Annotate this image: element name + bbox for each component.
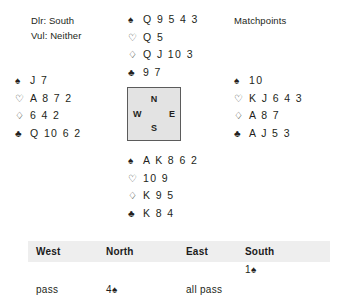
- hand-west-clubs: Q 10 6 2: [30, 125, 81, 143]
- diamond-icon: ♢: [128, 187, 143, 205]
- heart-icon: ♡: [15, 90, 30, 108]
- club-icon: ♣: [128, 205, 143, 223]
- hand-south-hearts: 10 9: [143, 170, 169, 188]
- hand-east-diamonds: A 8 7: [249, 107, 280, 125]
- hand-west-diamonds-row: ♢ 6 4 2: [15, 107, 81, 125]
- compass-east-label: E: [169, 110, 175, 119]
- spade-icon: ♠: [251, 264, 257, 275]
- hand-east-clubs: A J 5 3: [249, 125, 291, 143]
- hand-east-spades-row: ♠ 10: [234, 72, 303, 90]
- hand-east-spades: 10: [249, 72, 263, 90]
- spade-icon: ♠: [112, 284, 118, 295]
- hand-north-diamonds-row: ♢ Q J 10 3: [128, 46, 199, 64]
- scoring-label: Matchpoints: [234, 14, 286, 29]
- hand-east-diamonds-row: ♢ A 8 7: [234, 107, 303, 125]
- compass-box: N E S W: [127, 87, 181, 141]
- hand-west-hearts-row: ♡ A 8 7 2: [15, 90, 81, 108]
- dealer-label: Dlr: South: [31, 14, 81, 29]
- auction-header-north: North: [106, 241, 134, 262]
- hand-west-spades: J 7: [30, 72, 48, 90]
- hand-west-hearts: A 8 7 2: [30, 90, 73, 108]
- hand-north-spades: Q 9 5 4 3: [143, 11, 199, 29]
- auction-header-row: West North East South: [28, 241, 330, 262]
- auction-bid-south-1: 1♠: [245, 263, 257, 277]
- diamond-icon: ♢: [234, 107, 249, 125]
- hand-west-clubs-row: ♣ Q 10 6 2: [15, 125, 81, 143]
- hand-east-hearts: K J 6 4 3: [249, 90, 303, 108]
- hand-east-hearts-row: ♡ K J 6 4 3: [234, 90, 303, 108]
- spade-icon: ♠: [128, 11, 143, 29]
- hand-south-diamonds: K 9 5: [143, 187, 175, 205]
- diamond-icon: ♢: [15, 107, 30, 125]
- hand-north-hearts: Q 5: [143, 29, 164, 47]
- heart-icon: ♡: [128, 29, 143, 47]
- auction-bid-west-2: pass: [36, 283, 58, 297]
- scoring-block: Matchpoints: [234, 14, 286, 29]
- hand-north-spades-row: ♠ Q 9 5 4 3: [128, 11, 199, 29]
- deal-info-block: Dlr: South Vul: Neither: [31, 14, 81, 43]
- club-icon: ♣: [15, 125, 30, 143]
- spade-icon: ♠: [15, 72, 30, 90]
- hand-south-spades-row: ♠ A K 8 6 2: [128, 152, 198, 170]
- hand-south-diamonds-row: ♢ K 9 5: [128, 187, 198, 205]
- auction-header-east: East: [186, 241, 208, 262]
- hand-south: ♠ A K 8 6 2 ♡ 10 9 ♢ K 9 5 ♣ K 8 4: [128, 152, 198, 222]
- compass-west-label: W: [133, 110, 142, 119]
- auction-header-south: South: [245, 241, 274, 262]
- heart-icon: ♡: [234, 90, 249, 108]
- auction-table: West North East South 1♠ pass 4♠ all pas…: [28, 241, 330, 302]
- hand-east-clubs-row: ♣ A J 5 3: [234, 125, 303, 143]
- hand-east: ♠ 10 ♡ K J 6 4 3 ♢ A 8 7 ♣ A J 5 3: [234, 72, 303, 142]
- hand-west: ♠ J 7 ♡ A 8 7 2 ♢ 6 4 2 ♣ Q 10 6 2: [15, 72, 81, 142]
- hand-west-diamonds: 6 4 2: [30, 107, 60, 125]
- hand-south-spades: A K 8 6 2: [143, 152, 198, 170]
- vulnerability-label: Vul: Neither: [31, 29, 81, 44]
- club-icon: ♣: [234, 125, 249, 143]
- hand-north-hearts-row: ♡ Q 5: [128, 29, 199, 47]
- auction-bids: 1♠ pass 4♠ all pass: [28, 262, 330, 302]
- club-icon: ♣: [128, 64, 143, 82]
- spade-icon: ♠: [234, 72, 249, 90]
- hand-north-clubs-row: ♣ 9 7: [128, 64, 199, 82]
- compass-north-label: N: [151, 95, 158, 104]
- hand-south-hearts-row: ♡ 10 9: [128, 170, 198, 188]
- hand-south-clubs: K 8 4: [143, 205, 175, 223]
- auction-bid-north-2: 4♠: [106, 283, 118, 297]
- auction-bid-east-2: all pass: [186, 283, 222, 297]
- diamond-icon: ♢: [128, 46, 143, 64]
- hand-south-clubs-row: ♣ K 8 4: [128, 205, 198, 223]
- hand-north-clubs: 9 7: [143, 64, 162, 82]
- hand-north-diamonds: Q J 10 3: [143, 46, 194, 64]
- hand-west-spades-row: ♠ J 7: [15, 72, 81, 90]
- hand-north: ♠ Q 9 5 4 3 ♡ Q 5 ♢ Q J 10 3 ♣ 9 7: [128, 11, 199, 81]
- spade-icon: ♠: [128, 152, 143, 170]
- heart-icon: ♡: [128, 170, 143, 188]
- auction-header-west: West: [36, 241, 61, 262]
- compass-south-label: S: [151, 124, 157, 133]
